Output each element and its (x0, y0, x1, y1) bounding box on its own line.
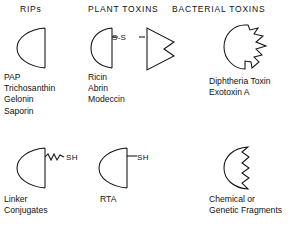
label-group-plant-bottom: RTA (100, 194, 116, 205)
shape-half-disc-zigzag-fragment (222, 144, 260, 192)
label-group-rips-top: PAP Trichosanthin Gelonin Saporin (4, 72, 55, 117)
label-item: Diphtheria Toxin (209, 76, 270, 87)
label-group-plant-top: Ricin Abrin Modeccin (88, 72, 125, 106)
label-item: Ricin (88, 72, 125, 83)
label-group-bacterial-top: Diphtheria Toxin Exotoxin A (209, 76, 270, 98)
label-item: RTA (100, 194, 116, 205)
label-item: Chemical or (209, 194, 282, 205)
shape-notched-triangle-b-chain (144, 26, 176, 72)
label-item: Abrin (88, 83, 125, 94)
disulfide-bond-label: S-S (112, 33, 126, 42)
label-group-bacterial-bottom: Chemical or Genetic Fragments (209, 194, 282, 216)
label-item: PAP (4, 72, 55, 83)
thiol-label-rta: SH (137, 153, 149, 162)
diagram-canvas: RIPs PLANT TOXINS BACTERIAL TOXINS S-S P… (0, 0, 305, 227)
column-header-rips: RIPs (20, 4, 42, 14)
shape-blob-jagged-diphtheria (222, 23, 270, 71)
column-header-plant-toxins: PLANT TOXINS (88, 4, 159, 14)
label-item: Saporin (4, 106, 55, 117)
label-item: Linker (4, 194, 47, 205)
thiol-label-linker: SH (66, 153, 78, 162)
label-item: Gelonin (4, 94, 55, 105)
label-item: Trichosanthin (4, 83, 55, 94)
shape-half-disc-a-chain (16, 26, 50, 70)
column-header-bacterial-toxins: BACTERIAL TOXINS (172, 4, 265, 14)
squiggle-linker-icon (44, 151, 68, 163)
label-group-rips-bottom: Linker Conjugates (4, 194, 47, 216)
label-item: Genetic Fragments (209, 205, 282, 216)
label-item: Conjugates (4, 205, 47, 216)
label-item: Modeccin (88, 94, 125, 105)
label-item: Exotoxin A (209, 87, 270, 98)
